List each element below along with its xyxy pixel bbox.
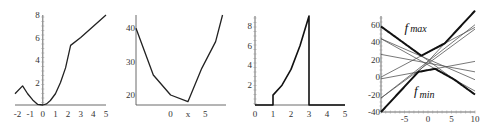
series-line	[255, 16, 345, 105]
x-tick-label: 0	[168, 109, 173, 119]
x-tick-label: 5	[449, 114, 454, 124]
f-max-label: fmax	[405, 20, 428, 35]
x-tick-label: 3	[78, 109, 83, 119]
series-line-3	[381, 39, 475, 80]
y-tick-label: 30	[126, 57, 136, 67]
y-tick-label: 6	[248, 41, 253, 51]
y-tick-label: 8	[248, 21, 253, 31]
x-tick-label: -2	[14, 109, 22, 119]
series-line	[15, 15, 106, 105]
series-line	[136, 15, 223, 102]
y-tick-label: -40	[368, 107, 380, 117]
x-tick-label: 0	[253, 109, 258, 119]
x-tick-label: 5	[343, 109, 348, 119]
x-tick-label: 1	[271, 109, 276, 119]
f-max-envelope	[381, 11, 475, 56]
x-tick-label: 5	[104, 109, 109, 119]
panel-2: 0x5203040	[126, 15, 226, 119]
y-tick-label: 4	[248, 60, 253, 70]
x-tick-label: 0	[426, 114, 431, 124]
y-tick-label: 40	[126, 23, 136, 33]
y-tick-label: 8	[35, 10, 40, 20]
x-tick-label: 5	[203, 109, 208, 119]
y-tick-label: 60	[371, 20, 381, 30]
y-tick-label: 4	[35, 55, 40, 65]
x-tick-label: 0	[41, 109, 46, 119]
f-min-label: fmin	[414, 83, 435, 100]
x-tick-label: 4	[91, 109, 96, 119]
x-tick-label: 4	[325, 109, 330, 119]
y-tick-label: 0	[376, 72, 381, 82]
x-tick-label: 1	[53, 109, 58, 119]
x-tick-label: x	[186, 109, 191, 119]
x-tick-label: 2	[66, 109, 71, 119]
y-tick-label: 2	[35, 78, 40, 88]
x-tick-label: 2	[289, 109, 294, 119]
panel-1: -2-10123452468	[14, 10, 109, 119]
panel-3: 0123452468	[248, 16, 348, 119]
chart-canvas: -2-101234524680x52030400123452468-50510-…	[0, 0, 497, 125]
panel-4: -50510-40-200204060fmaxfmin	[368, 11, 480, 124]
x-tick-label: -5	[401, 114, 409, 124]
x-tick-label: 3	[307, 109, 312, 119]
x-tick-label: 10	[471, 114, 481, 124]
y-tick-label: 40	[371, 37, 381, 47]
y-tick-label: 20	[371, 55, 381, 65]
y-tick-label: 20	[126, 90, 136, 100]
y-tick-label: -20	[368, 90, 380, 100]
x-tick-label: -1	[26, 109, 34, 119]
y-tick-label: 6	[35, 33, 40, 43]
y-tick-label: 2	[248, 80, 253, 90]
